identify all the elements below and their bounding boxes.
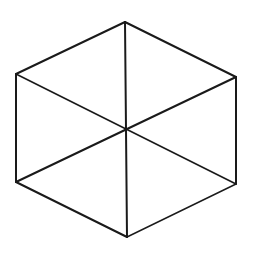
edge-top-upper-right bbox=[125, 22, 236, 77]
edge-upper-left-top bbox=[16, 22, 125, 74]
edge-bottom-lower-left bbox=[16, 182, 127, 237]
hexagon-diagram bbox=[0, 0, 254, 253]
edge-lower-right-bottom bbox=[127, 184, 236, 237]
